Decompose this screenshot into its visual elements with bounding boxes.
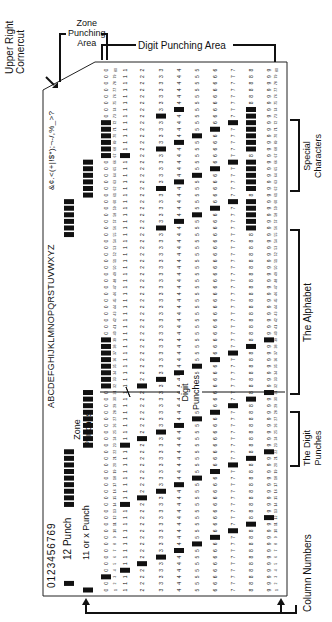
punch-hole [210, 410, 220, 415]
row-digit: 2 [139, 319, 145, 322]
row-digit: 0 [103, 253, 109, 256]
row-digit: 7 [230, 319, 236, 322]
row-digit: 9 [266, 476, 272, 479]
column-number: 68 [114, 147, 118, 151]
column-number: 42 [114, 318, 118, 322]
row-digit: 1 [122, 562, 128, 565]
row-digit: 8 [248, 358, 254, 361]
column-number: 73 [275, 114, 279, 118]
row-digit: 2 [139, 430, 145, 433]
row-digit: 3 [158, 213, 164, 216]
column-number: 67 [275, 154, 279, 158]
row-digit: 2 [139, 351, 145, 354]
punch-hole [101, 120, 111, 125]
row-digit: 0 [103, 509, 109, 512]
column-number: 53 [114, 246, 118, 250]
row-digit: 4 [176, 266, 182, 269]
row-digit: 9 [266, 233, 272, 236]
row-digit: 5 [194, 147, 200, 150]
column-number: 43 [275, 312, 279, 316]
row-digit: 7 [230, 141, 236, 144]
row-digit: 0 [103, 286, 109, 289]
row-digit: 6 [212, 457, 218, 460]
row-digit: 1 [122, 351, 128, 354]
row-digit: 2 [139, 503, 145, 506]
special-line-2: Characters [313, 134, 324, 178]
row-digit: 8 [248, 430, 254, 433]
row-digit: 1 [122, 345, 128, 348]
row-digit: 0 [103, 476, 109, 479]
column-number: 77 [114, 88, 118, 92]
row-digit: 6 [212, 509, 218, 512]
punch-hole [101, 146, 111, 151]
column-number: 75 [275, 101, 279, 105]
column-number: 69 [275, 140, 279, 144]
row-digit: 7 [230, 325, 236, 328]
row-digit: 8 [248, 253, 254, 256]
punch-hole [101, 364, 111, 369]
punch-hole [246, 140, 256, 145]
row-digit: 6 [212, 378, 218, 381]
row-digit: 5 [194, 266, 200, 269]
row-digit: 4 [176, 555, 182, 558]
row-digit: 2 [139, 246, 145, 249]
row-digit: 5 [194, 536, 200, 539]
row-digit: 8 [248, 509, 254, 512]
row-digit: 7 [230, 101, 236, 104]
digit-punches-line-2: Punches [313, 430, 324, 466]
row-digit: 3 [158, 246, 164, 249]
row-digit: 3 [158, 193, 164, 196]
row-digit: 3 [158, 503, 164, 506]
row-digit: 5 [194, 582, 200, 585]
column-number: 40 [275, 331, 279, 335]
row-digit: 9 [266, 253, 272, 256]
row-digit: 6 [212, 82, 218, 85]
row-digit: 3 [158, 319, 164, 322]
row-digit: 5 [194, 588, 200, 591]
row-digit: 0 [103, 463, 109, 466]
row-digit: 0 [103, 193, 109, 196]
row-digit: 9 [266, 68, 272, 71]
column-number: 3 [114, 576, 118, 578]
row-digit: 7 [230, 575, 236, 578]
row-digit: 2 [139, 549, 145, 552]
column-number: 11 [114, 522, 118, 526]
row-digit: 8 [248, 503, 254, 506]
row-digit: 4 [176, 516, 182, 519]
punch-hole [174, 179, 184, 184]
row-digit: 1 [122, 207, 128, 210]
row-digit: 9 [266, 187, 272, 190]
row-digit: 6 [212, 516, 218, 519]
row-digit: 9 [266, 180, 272, 183]
punch-hole [174, 423, 184, 428]
row-digit: 6 [212, 88, 218, 91]
row-digit: 1 [122, 266, 128, 269]
row-digit: 1 [122, 476, 128, 479]
row-digit: 6 [212, 351, 218, 354]
row-digit: 4 [176, 174, 182, 177]
row-digit: 1 [122, 141, 128, 144]
row-digit: 4 [176, 358, 182, 361]
row-digit: 9 [266, 562, 272, 565]
row-digit: 3 [158, 582, 164, 585]
row-digit: 6 [212, 437, 218, 440]
row-digit: 5 [194, 240, 200, 243]
column-number: 63 [275, 180, 279, 184]
row-digit: 7 [230, 503, 236, 506]
column-number: 10 [114, 529, 118, 533]
row-digit: 5 [194, 128, 200, 131]
row-digit: 5 [194, 207, 200, 210]
row-digit: 3 [158, 207, 164, 210]
row-digit: 5 [194, 161, 200, 164]
row-digit: 6 [212, 292, 218, 295]
column-number: 19 [114, 470, 118, 474]
column-number: 21 [114, 456, 118, 460]
column-number: 30 [114, 397, 118, 401]
row-digit: 3 [158, 75, 164, 78]
zone-punches-line-2: Punches [83, 412, 94, 447]
row-digit: 2 [139, 95, 145, 98]
row-digit: 5 [194, 108, 200, 111]
row-digit: 9 [266, 345, 272, 348]
row-digit: 7 [230, 305, 236, 308]
column-number: 36 [275, 358, 279, 362]
